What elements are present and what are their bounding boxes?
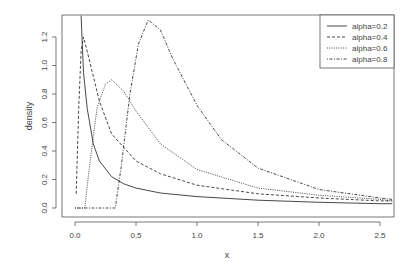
- x-tick-label: 1.5: [252, 231, 264, 240]
- x-axis: 0.00.51.01.52.02.5: [69, 222, 386, 240]
- x-tick-label: 2.5: [374, 231, 386, 240]
- x-tick-label: 1.0: [191, 231, 203, 240]
- legend-label: alpha=0.6: [352, 44, 388, 53]
- y-tick-label: 0.6: [40, 116, 49, 128]
- density-chart: 0.00.20.40.60.81.01.2 0.00.51.01.52.02.5…: [0, 0, 413, 268]
- legend-label: alpha=0.8: [352, 55, 388, 64]
- x-tick-label: 2.0: [313, 231, 325, 240]
- y-tick-label: 0.2: [40, 173, 49, 185]
- x-tick-label: 0.5: [130, 231, 142, 240]
- y-tick-label: 1.0: [40, 59, 49, 71]
- y-axis-label: density: [24, 101, 34, 130]
- x-tick-label: 0.0: [69, 231, 81, 240]
- y-tick-label: 0.0: [40, 202, 49, 214]
- x-axis-label: x: [225, 250, 230, 260]
- legend-label: alpha=0.4: [352, 33, 388, 42]
- y-axis: 0.00.20.40.60.81.01.2: [40, 31, 56, 214]
- y-tick-label: 0.4: [40, 145, 49, 157]
- legend: alpha=0.2alpha=0.4alpha=0.6alpha=0.8: [320, 15, 394, 68]
- legend-label: alpha=0.2: [352, 22, 388, 31]
- y-tick-label: 0.8: [40, 88, 49, 100]
- series-line-3: [75, 80, 392, 208]
- y-tick-label: 1.2: [40, 31, 49, 43]
